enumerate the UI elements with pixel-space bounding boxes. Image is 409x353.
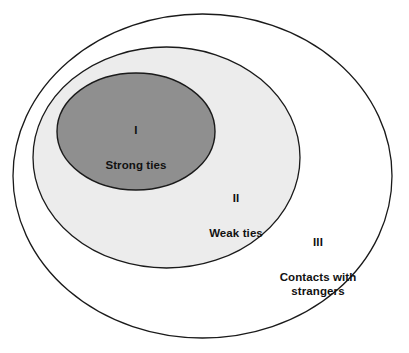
venn-diagram: I Strong ties II Weak ties III Contacts …	[0, 0, 409, 353]
region-name-contacts-with-strangers: Contacts with strangers	[258, 270, 378, 299]
region-label-contacts-with-strangers: III Contacts with strangers	[258, 215, 378, 319]
region-numeral-iii: III	[258, 235, 378, 249]
region-numeral-i: I	[76, 123, 196, 137]
region-numeral-ii: II	[176, 191, 296, 205]
